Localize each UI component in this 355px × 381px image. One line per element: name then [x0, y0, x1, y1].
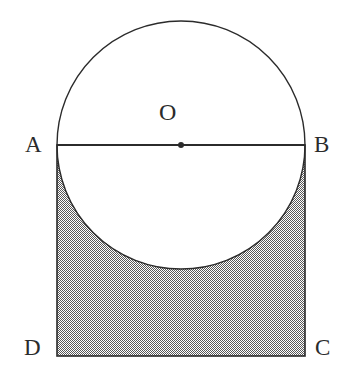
figure-canvas	[0, 0, 355, 381]
vertex-label-b: B	[314, 133, 329, 156]
center-point-marker	[178, 142, 184, 148]
shaded-region	[57, 145, 305, 356]
center-label-o: O	[159, 101, 176, 124]
vertex-label-c: C	[315, 336, 330, 359]
vertex-label-a: A	[25, 133, 42, 156]
vertex-label-d: D	[24, 336, 41, 359]
geometry-figure: A B C D O	[0, 0, 355, 381]
